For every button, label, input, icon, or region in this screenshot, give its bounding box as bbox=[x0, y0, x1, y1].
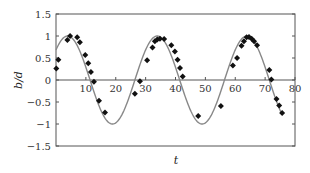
y-tick-label: 0.5 bbox=[35, 53, 51, 64]
data-point-marker bbox=[195, 113, 201, 119]
y-tick-label: 1.5 bbox=[35, 9, 51, 20]
data-point-marker bbox=[53, 66, 59, 72]
y-axis-label: b/d bbox=[12, 71, 25, 89]
y-tick-label: −1.5 bbox=[27, 141, 51, 152]
data-point-marker bbox=[161, 36, 167, 42]
x-tick-label: 80 bbox=[289, 83, 302, 94]
x-tick-label: 30 bbox=[139, 83, 152, 94]
y-tick-label: −1 bbox=[36, 119, 51, 130]
y-tick-label: 1 bbox=[45, 31, 51, 42]
data-point-marker bbox=[132, 91, 138, 97]
data-point-marker bbox=[82, 52, 88, 58]
x-tick-label: 10 bbox=[80, 83, 93, 94]
data-point-marker bbox=[180, 73, 186, 79]
x-tick-label: 70 bbox=[259, 83, 272, 94]
data-point-marker bbox=[175, 57, 181, 63]
chart: 1.510.50−0.5−1−1.5 1020304050607080 b/d … bbox=[0, 0, 310, 173]
y-tick-label: −0.5 bbox=[27, 97, 51, 108]
x-axis-label: t bbox=[174, 154, 179, 167]
data-point-marker bbox=[218, 103, 224, 109]
x-tick-label: 20 bbox=[109, 83, 122, 94]
x-tick-label: 40 bbox=[169, 83, 182, 94]
data-point-marker bbox=[85, 60, 91, 66]
data-point-marker bbox=[234, 55, 240, 61]
data-point-marker bbox=[168, 42, 174, 48]
data-point-marker bbox=[74, 34, 80, 40]
data-point-marker bbox=[177, 65, 183, 71]
y-tick-label: 0 bbox=[45, 75, 51, 86]
data-point-marker bbox=[77, 39, 83, 45]
data-point-marker bbox=[149, 44, 155, 50]
x-tick-label: 50 bbox=[199, 83, 212, 94]
data-point-marker bbox=[144, 57, 150, 63]
data-point-marker bbox=[172, 48, 178, 54]
x-tick-label: 60 bbox=[229, 83, 242, 94]
